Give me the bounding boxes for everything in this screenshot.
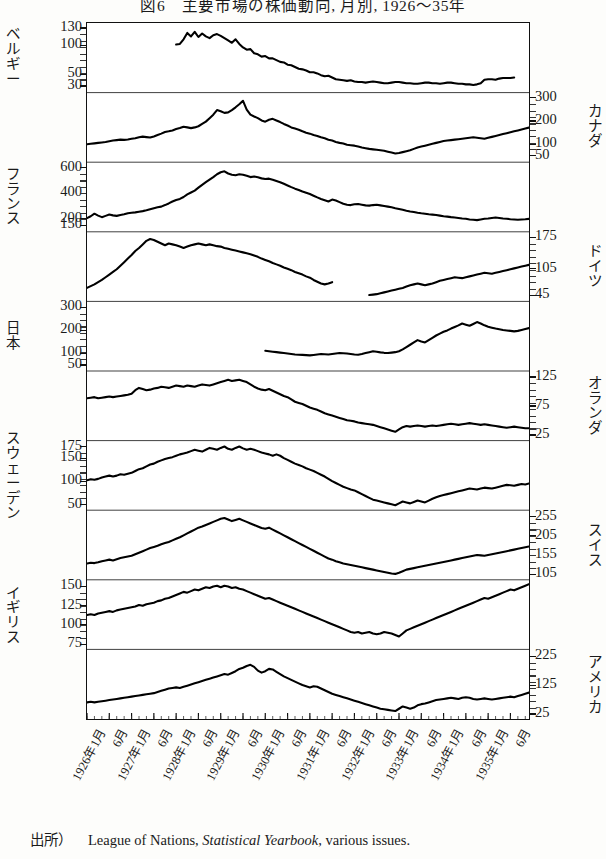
x-axis-tick-label: 1926年1月 [66, 724, 110, 783]
panel-country-label-japan: 日本 [4, 321, 21, 351]
axis-tick-mark [530, 434, 536, 435]
series-line-united-states [87, 665, 529, 711]
axis-tick-mark-minor [530, 396, 536, 397]
axis-tick-label: 600 [60, 159, 82, 174]
axis-tick-mark-minor [530, 542, 536, 543]
axis-tick-mark-minor [530, 143, 536, 144]
source-note: 出所）League of Nations, Statistical Yearbo… [30, 828, 410, 849]
axis-tick-mark-minor [530, 529, 536, 530]
axis-tick-label: 105 [535, 260, 557, 275]
axis-tick-mark-minor [530, 276, 536, 277]
axis-tick-mark [530, 405, 536, 406]
x-axis-tick-label: 6月 [509, 724, 535, 750]
axis-tick-mark-minor [530, 568, 536, 569]
axis-tick-mark-minor [530, 263, 536, 264]
axis-tick-label: 300 [60, 298, 82, 313]
axis-tick-label: 225 [535, 647, 557, 662]
series-line-france [87, 171, 529, 220]
panel-country-label-united-states: アメリカ [586, 655, 603, 715]
axis-tick-mark [530, 97, 536, 98]
axis-tick-mark [530, 237, 536, 238]
axis-tick-label: 155 [535, 546, 557, 561]
panel-country-label-france: フランス [4, 167, 21, 227]
axis-tick-mark-minor [530, 383, 536, 384]
axis-tick-label: 200 [60, 321, 82, 336]
axis-tick-label: 125 [535, 676, 557, 691]
axis-tick-mark-minor [530, 708, 536, 709]
axis-tick-mark-minor [530, 250, 536, 251]
axis-tick-label: 105 [535, 565, 557, 580]
series-line-sweden [87, 447, 529, 506]
axis-tick-mark-minor [530, 409, 536, 410]
axis-tick-mark-minor [530, 282, 536, 283]
axis-tick-label: 100 [60, 472, 82, 487]
axis-tick-label: 125 [60, 597, 82, 612]
axis-tick-mark [530, 574, 536, 575]
axis-tick-mark-minor [530, 416, 536, 417]
panel-country-label-belgium: ベルギー [4, 27, 21, 87]
axis-tick-label: 200 [535, 112, 557, 127]
axis-tick-mark-minor [530, 549, 536, 550]
panel-country-label-switzerland: スイス [586, 523, 603, 568]
axis-tick-mark-minor [530, 422, 536, 423]
axis-tick-mark-minor [530, 289, 536, 290]
series-line-netherlands [87, 380, 529, 432]
source-title-italic: Statistical Yearbook [202, 832, 318, 848]
axis-tick-label: 25 [535, 426, 550, 441]
axis-tick-mark-minor [530, 130, 536, 131]
axis-tick-mark-minor [530, 675, 536, 676]
axis-tick-mark [530, 120, 536, 121]
axis-tick-mark-minor [530, 701, 536, 702]
x-axis-labels: 1926年1月6月1927年1月6月1928年1月6月1929年1月6月1930… [86, 724, 530, 820]
axis-tick-label: 255 [535, 508, 557, 523]
axis-tick-label: 130 [60, 19, 82, 34]
source-text-after: , various issues. [318, 832, 410, 848]
panel-country-label-germany: ドイツ [586, 244, 603, 289]
chart-plot-area [86, 22, 530, 720]
axis-tick-label: 150 [60, 449, 82, 464]
axis-tick-mark-minor [530, 111, 536, 112]
axis-tick-mark-minor [530, 403, 536, 404]
axis-tick-label: 150 [60, 216, 82, 231]
axis-tick-mark-minor [530, 117, 536, 118]
series-line-canada [87, 101, 529, 154]
series-line-germany [87, 239, 529, 295]
axis-tick-mark-minor [530, 123, 536, 124]
axis-tick-label: 50 [535, 147, 550, 162]
axis-tick-label: 175 [535, 228, 557, 243]
axis-tick-mark-minor [530, 663, 536, 664]
axis-tick-mark [530, 155, 536, 156]
figure-title: 図6 主要市場の株価動向, 月別, 1926～35年 [0, 0, 606, 15]
axis-tick-label: 400 [60, 184, 82, 199]
axis-tick-mark-minor [530, 390, 536, 391]
source-text-before: League of Nations, [88, 832, 199, 848]
axis-tick-mark-minor [530, 104, 536, 105]
series-line-united-kingdom [87, 584, 529, 636]
axis-tick-mark-minor [530, 669, 536, 670]
axis-tick-mark [530, 656, 536, 657]
panel-country-label-netherlands: オランダ [586, 376, 603, 436]
axis-tick-mark [530, 516, 536, 517]
axis-tick-mark-minor [530, 682, 536, 683]
axis-tick-mark-minor [530, 562, 536, 563]
axis-tick-mark-minor [530, 523, 536, 524]
left-axis: 1301005030ベルギー600400200150フランス3002001005… [0, 22, 86, 720]
axis-tick-mark-minor [530, 136, 536, 137]
panel-country-label-sweden: スウェーデン [4, 431, 21, 521]
chart-svg [87, 23, 529, 719]
axis-tick-mark-minor [530, 555, 536, 556]
axis-tick-label: 25 [535, 705, 550, 720]
axis-tick-mark-minor [530, 536, 536, 537]
axis-tick-mark-minor [530, 428, 536, 429]
axis-tick-mark-minor [530, 244, 536, 245]
axis-tick-label: 125 [535, 368, 557, 383]
series-line-switzerland [87, 518, 529, 574]
series-line-japan [265, 322, 529, 355]
panel-country-label-united-kingdom: イギリス [4, 586, 21, 646]
axis-tick-label: 45 [535, 286, 550, 301]
series-line-belgium [176, 32, 514, 85]
axis-tick-mark [530, 295, 536, 296]
axis-tick-label: 205 [535, 527, 557, 542]
axis-tick-mark [530, 685, 536, 686]
axis-tick-mark-minor [530, 688, 536, 689]
